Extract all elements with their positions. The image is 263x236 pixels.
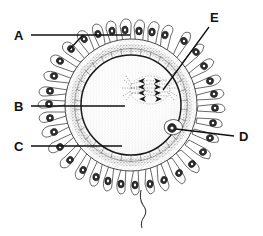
label-a: A [14, 28, 24, 43]
label-e: E [210, 10, 219, 25]
label-c: C [14, 139, 24, 154]
ooplasm-cytoplasm [81, 55, 181, 155]
figure-canvas: A B C D E [0, 0, 263, 236]
label-b: B [14, 99, 23, 114]
ovum-diagram: A B C D E [0, 0, 263, 236]
polar-body [164, 120, 182, 135]
label-d: D [239, 129, 248, 144]
